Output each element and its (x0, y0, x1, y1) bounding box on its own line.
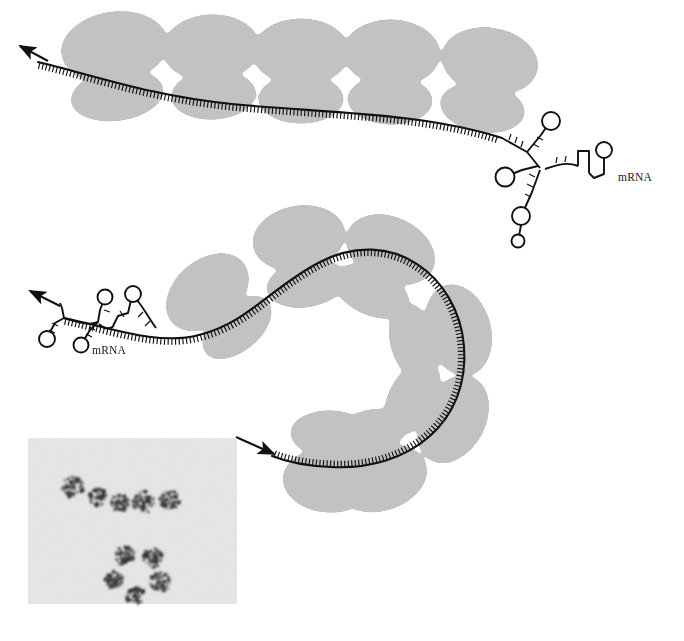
hairpin-loop (496, 168, 515, 187)
mrna-stem-loops-bottom (39, 286, 156, 353)
ribosome-small-subunit (347, 75, 433, 126)
hairpin-loop (596, 142, 612, 158)
ribosome (431, 21, 542, 139)
micrograph-grain-overlay (28, 438, 237, 604)
upper-ribosome-group (57, 5, 542, 139)
hairpin-loop (74, 338, 89, 353)
hairpin-loop (512, 207, 530, 225)
hairpin-loop (125, 286, 141, 302)
ribosome-small-subunit (170, 69, 256, 121)
hairpin-loop (542, 112, 560, 130)
figure-canvas: mRNA (0, 0, 684, 641)
upper-direction-arrow (20, 46, 48, 61)
polyribosome-figure: mRNA (0, 0, 684, 641)
mrna-connector (545, 164, 578, 169)
mrna-label-top: mRNA (618, 171, 653, 183)
stem-loop-hairpin (527, 126, 547, 152)
stem-loop-hairpin (589, 156, 604, 178)
stem-loop-hairpin (578, 151, 589, 173)
upper-polyribosome: mRNA (20, 5, 653, 247)
hairpin-loop (39, 331, 55, 347)
ribosome (57, 5, 177, 127)
hairpin-loop (512, 235, 525, 248)
stem-loop-hairpin (60, 303, 64, 318)
stem-loop-hairpin (512, 166, 538, 174)
ribosome (341, 18, 441, 125)
lower-direction-arrow-right (236, 437, 274, 454)
electron-micrograph-inset (28, 438, 237, 605)
hairpin-loop (98, 290, 113, 305)
ribosome (282, 409, 377, 513)
lower-direction-arrow-left (30, 291, 60, 306)
mrna-stem-loops-top (496, 112, 613, 248)
stem-branch (98, 302, 103, 322)
mrna-label-bottom: mRNA (92, 344, 127, 356)
